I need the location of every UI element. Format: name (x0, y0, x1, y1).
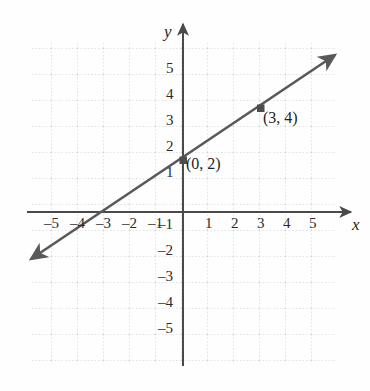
x-axis-label: x (352, 216, 360, 233)
y-tick-neg-4: –4 (158, 295, 173, 310)
coordinate-plane-svg (0, 0, 370, 391)
y-tick-4: 4 (166, 87, 174, 102)
y-tick-5: 5 (166, 61, 174, 76)
x-tick-neg-4: –4 (70, 216, 85, 231)
y-tick-neg-2: –2 (158, 243, 173, 258)
point-annotation-intercept: (0, 2) (186, 156, 221, 172)
x-tick-3: 3 (257, 216, 265, 231)
y-axis-label: y (164, 23, 172, 40)
x-tick-4: 4 (283, 216, 291, 231)
y-tick-neg-5: –5 (158, 321, 173, 336)
x-tick-neg-3: –3 (96, 216, 111, 231)
graph-figure: y x 5 4 3 2 1 –1 –2 –3 –4 –5 –5 –4 –3 –2… (0, 0, 370, 391)
x-tick-5: 5 (309, 216, 317, 231)
y-tick-2: 2 (166, 139, 174, 154)
x-tick-1: 1 (205, 216, 213, 231)
y-tick-3: 3 (166, 113, 174, 128)
y-tick-neg-3: –3 (158, 269, 173, 284)
point-annotation-line-point: (3, 4) (263, 110, 298, 126)
x-tick-neg-1: –1 (148, 216, 163, 231)
x-tick-neg-5: –5 (44, 216, 59, 231)
x-tick-neg-2: –2 (122, 216, 137, 231)
y-tick-1: 1 (166, 165, 174, 180)
x-tick-2: 2 (231, 216, 239, 231)
